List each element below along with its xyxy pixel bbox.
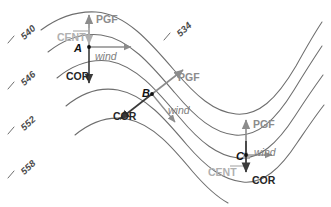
gradient-wind-diagram: 540 546 552 558 534 A PGF CENT COR wind … (0, 0, 331, 207)
cent-label-c: CENT (208, 167, 237, 178)
point-marker-c (244, 153, 248, 157)
point-marker-b (150, 92, 154, 96)
point-marker-a (87, 45, 91, 49)
point-label-b: B (142, 88, 150, 99)
wind-label-c: wind (254, 147, 276, 158)
cor-label-c: COR (252, 175, 275, 186)
point-label-c: C (236, 151, 244, 162)
pgf-label-c: PGF (253, 119, 275, 130)
wind-label-b: wind (168, 105, 190, 116)
point-label-a: A (74, 43, 82, 54)
cent-label-a: CENT (57, 32, 86, 43)
pgf-label-b: PGF (178, 72, 200, 83)
pgf-label-a: PGF (96, 14, 118, 25)
cor-label-a: COR (66, 71, 89, 82)
contour-tick-546 (8, 82, 14, 89)
contour-line-558 (75, 118, 228, 203)
cor-label-b: COR (113, 111, 136, 122)
diagram-canvas (0, 0, 331, 207)
contour-tick-534 (164, 33, 170, 40)
wind-label-a: wind (95, 51, 117, 62)
contour-tick-558 (8, 171, 14, 178)
contour-tick-552 (8, 127, 14, 134)
contour-tick-540 (8, 36, 14, 43)
